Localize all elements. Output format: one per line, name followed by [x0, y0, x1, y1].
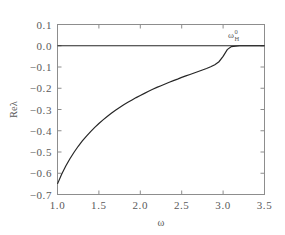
- chart-figure: 0.1 0.0 −0.1 −0.2 −0.3 −0.4 −0.5 −0.6 −0…: [0, 0, 285, 235]
- y-tick-label: 0.1: [36, 19, 52, 31]
- x-tick-label: 1.0: [50, 199, 66, 211]
- x-tick-label: 2.5: [174, 199, 190, 211]
- annotation-superscript: 0: [235, 28, 238, 35]
- annotation-subscript: H: [235, 35, 240, 42]
- y-tick-label: −0.5: [30, 146, 52, 158]
- y-axis-title: Reλ: [8, 100, 19, 118]
- y-tick-label: −0.2: [30, 82, 52, 94]
- y-tick-label: 0.0: [36, 40, 52, 52]
- y-tick-label: −0.3: [30, 104, 52, 116]
- x-tick-label: 3.5: [257, 199, 273, 211]
- y-tick-label: −0.1: [30, 61, 52, 73]
- y-tick-label: −0.4: [30, 125, 52, 137]
- plot-svg: 0.1 0.0 −0.1 −0.2 −0.3 −0.4 −0.5 −0.6 −0…: [0, 0, 285, 235]
- x-tick-label: 3.0: [215, 199, 231, 211]
- x-tick-label: 2.0: [133, 199, 149, 211]
- x-tick-label: 1.5: [91, 199, 107, 211]
- annotation-omega-symbol: ω: [228, 30, 234, 40]
- x-axis-title: ω: [158, 217, 165, 228]
- y-tick-label: −0.6: [30, 167, 52, 179]
- y-tick-label: −0.7: [30, 189, 52, 201]
